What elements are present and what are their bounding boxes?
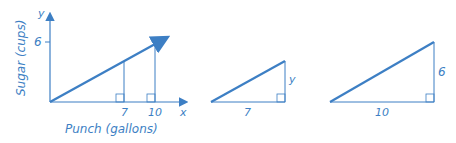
y-axis-var: y (37, 7, 45, 20)
triangle-large (330, 42, 434, 102)
large-height-label: 6 (438, 65, 446, 79)
x-tick-7: 7 (121, 106, 128, 119)
x-axis-label: Punch (gallons) (65, 122, 158, 136)
right-angle-7 (116, 94, 124, 102)
right-angle-small (277, 94, 285, 102)
right-angle-large (426, 94, 434, 102)
small-base-label: 7 (244, 106, 251, 119)
y-tick-label: 6 (34, 35, 42, 49)
proportion-line (50, 38, 166, 102)
right-angle-10 (147, 94, 155, 102)
triangle-small (211, 61, 285, 102)
graph (45, 14, 186, 102)
small-height-label: y (288, 73, 296, 86)
x-axis-var: x (179, 106, 187, 119)
x-tick-10: 10 (148, 106, 162, 119)
proportion-diagram: y 6 7 10 x Punch (gallons) Sugar (cups) … (0, 0, 456, 143)
y-axis-label: Sugar (cups) (14, 20, 28, 96)
large-base-label: 10 (375, 106, 389, 119)
